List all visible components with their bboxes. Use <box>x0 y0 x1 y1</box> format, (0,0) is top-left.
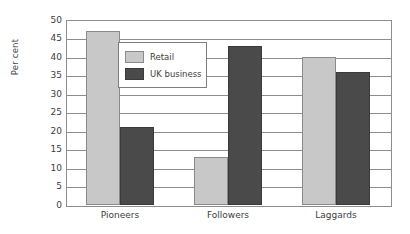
bars-layer <box>66 20 390 205</box>
bar-followers-retail <box>194 157 228 205</box>
x-axis-tick-labels: PioneersFollowersLaggards <box>66 210 390 226</box>
y-tick-label: 0 <box>40 201 62 210</box>
y-tick-label: 30 <box>40 90 62 99</box>
x-tick-label-laggards: Laggards <box>282 210 390 220</box>
legend-label-uk-business: UK business <box>150 69 202 79</box>
y-tick-label: 20 <box>40 127 62 136</box>
x-tick-label-followers: Followers <box>174 210 282 220</box>
legend-swatch-retail-icon <box>125 51 144 63</box>
bar-pioneers-uk-business <box>120 127 154 205</box>
bar-pioneers-retail <box>86 31 120 205</box>
y-axis-tick-labels: 05101520253035404550 <box>38 0 62 234</box>
y-axis-title: Per cent <box>10 22 26 92</box>
y-tick-label: 45 <box>40 34 62 43</box>
y-tick-label: 5 <box>40 182 62 191</box>
chart-legend: Retail UK business <box>118 42 207 88</box>
bar-followers-uk-business <box>228 46 262 205</box>
legend-item-retail: Retail <box>125 48 200 65</box>
y-tick-label: 15 <box>40 145 62 154</box>
y-tick-label: 10 <box>40 164 62 173</box>
bar-chart-figure: Per cent 05101520253035404550 PioneersFo… <box>0 0 410 234</box>
bar-laggards-retail <box>302 57 336 205</box>
y-tick-label: 25 <box>40 108 62 117</box>
legend-swatch-uk-business-icon <box>125 68 144 80</box>
y-tick-label: 50 <box>40 16 62 25</box>
y-tick-label: 40 <box>40 53 62 62</box>
legend-label-retail: Retail <box>150 52 174 62</box>
legend-item-uk-business: UK business <box>125 65 200 82</box>
x-tick-label-pioneers: Pioneers <box>66 210 174 220</box>
bar-laggards-uk-business <box>336 72 370 205</box>
y-tick-label: 35 <box>40 71 62 80</box>
